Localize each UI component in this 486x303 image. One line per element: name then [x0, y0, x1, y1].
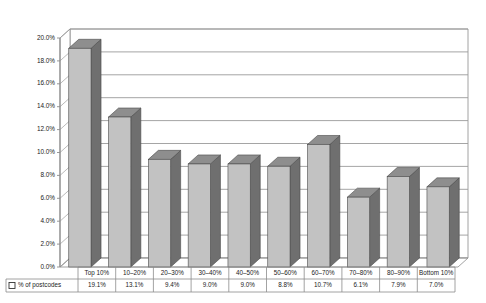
table-cell-value: 7.0% — [429, 281, 444, 288]
y-tick-label: 4.0% — [40, 217, 55, 224]
bar-4 — [228, 155, 260, 267]
bar-7 — [347, 188, 379, 267]
table-cell-value: 8.8% — [278, 281, 293, 288]
table-column-header: 10–20% — [123, 269, 147, 276]
y-axis-tick-labels: 20.0%18.0%16.0%14.0%12.0%10.0%8.0%6.0%4.… — [37, 34, 55, 270]
table-column-header: 40–50% — [236, 269, 260, 276]
table-cell-value: 7.9% — [391, 281, 406, 288]
data-table: % of postcodesTop 10%19.1%10–20%13.1%20–… — [6, 267, 455, 292]
table-column-header: 20–30% — [161, 269, 185, 276]
chart-figure: 20.0%18.0%16.0%14.0%12.0%10.0%8.0%6.0%4.… — [0, 0, 486, 303]
table-column-header: 50–60% — [274, 269, 298, 276]
table-column-header: Top 10% — [85, 269, 110, 277]
y-tick-label: 0.0% — [40, 263, 55, 270]
y-tick-label: 20.0% — [37, 34, 55, 41]
bar-9 — [427, 178, 459, 267]
y-tick-label: 18.0% — [37, 57, 55, 64]
table-cell-value: 13.1% — [126, 281, 144, 288]
y-tick-label: 16.0% — [37, 79, 55, 86]
table-column-header: 80–90% — [387, 269, 411, 276]
y-tick-label: 8.0% — [40, 171, 55, 178]
bar-1 — [109, 108, 141, 267]
bar-0 — [69, 39, 101, 267]
table-column-header: 30–40% — [198, 269, 222, 276]
y-tick-label: 12.0% — [37, 125, 55, 132]
table-column-header: 60–70% — [311, 269, 335, 276]
bar-5 — [268, 157, 300, 267]
table-cell-value: 9.4% — [165, 281, 180, 288]
table-cell-value: 9.0% — [203, 281, 218, 288]
y-tick-label: 6.0% — [40, 194, 55, 201]
table-cell-value: 10.7% — [314, 281, 332, 288]
bar-8 — [387, 168, 419, 267]
y-tick-label: 10.0% — [37, 148, 55, 155]
table-cell-value: 6.1% — [354, 281, 369, 288]
y-tick-label: 2.0% — [40, 240, 55, 247]
bar-3 — [188, 155, 220, 267]
table-cell-value: 9.0% — [240, 281, 255, 288]
table-cell-value: 19.1% — [88, 281, 106, 288]
y-tick-label: 14.0% — [37, 102, 55, 109]
bar-chart-3d: 20.0%18.0%16.0%14.0%12.0%10.0%8.0%6.0%4.… — [0, 0, 486, 303]
bar-2 — [148, 150, 180, 267]
legend-label: % of postcodes — [18, 281, 61, 289]
y-axis — [57, 38, 60, 267]
table-column-header: Bottom 10% — [419, 269, 454, 276]
bar-6 — [308, 135, 340, 267]
table-column-header: 70–80% — [349, 269, 373, 276]
legend-square-icon — [9, 283, 15, 289]
